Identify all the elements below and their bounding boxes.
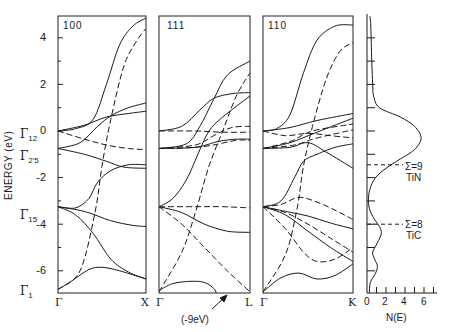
gamma15-label: Γ15 xyxy=(20,209,37,224)
solid-band xyxy=(263,144,353,207)
gamma-subscript: 12 xyxy=(28,134,37,143)
tic-sigma-label: Σ=8 xyxy=(405,219,423,230)
ytick-label-4: 4 xyxy=(26,32,46,43)
solid-band xyxy=(263,207,353,262)
dos-xtick-6: 6 xyxy=(421,297,427,307)
solid-band xyxy=(159,61,250,148)
gamma25-label: Γ2'5 xyxy=(20,150,39,165)
dos-panel xyxy=(367,14,437,293)
dashed-band xyxy=(58,131,146,150)
dos-curve xyxy=(368,16,421,293)
panel-111-bands xyxy=(159,61,250,293)
solid-band xyxy=(159,207,250,233)
dos-xtick-2: 2 xyxy=(382,297,388,307)
solid-band xyxy=(58,164,146,208)
panel-110-frame xyxy=(263,16,353,293)
dashed-band xyxy=(263,207,353,253)
kpoint-k: K xyxy=(348,297,356,308)
dashed-band xyxy=(263,43,353,292)
panel-title-111: 111 xyxy=(167,21,185,31)
dashed-band xyxy=(58,29,146,290)
solid-band xyxy=(159,96,250,207)
tin-name-label: TiN xyxy=(406,172,421,183)
tin-sigma-label: Σ=9 xyxy=(405,161,423,172)
gamma-subscript: 1 xyxy=(28,291,32,300)
arrow-9ev xyxy=(212,295,227,309)
kpoint-gamma-110: Γ xyxy=(260,297,268,308)
solid-band xyxy=(58,207,146,227)
ytick-label-neg6: -6 xyxy=(26,265,46,276)
dashed-band xyxy=(159,207,250,208)
annotation-9ev: (-9eV) xyxy=(181,314,209,325)
gamma12-label: Γ12 xyxy=(20,128,37,143)
panel-111-frame xyxy=(159,16,250,293)
solid-band xyxy=(58,111,146,131)
solid-band xyxy=(58,18,146,131)
dos-xlabel: N(E) xyxy=(386,313,407,323)
solid-band xyxy=(159,281,216,293)
gamma-subscript: 2'5 xyxy=(28,156,38,165)
band-curves xyxy=(58,18,353,293)
panel-110-bands xyxy=(263,25,353,292)
dos-axes xyxy=(367,14,437,293)
kpoint-x: X xyxy=(141,297,149,308)
tic-name-label: TiC xyxy=(406,230,421,241)
solid-band xyxy=(58,267,146,289)
y-axis-ticks xyxy=(58,38,63,271)
panel-100-bands xyxy=(58,18,146,289)
solid-band xyxy=(263,264,353,292)
solid-band xyxy=(263,25,353,131)
kpoint-gamma-100: Γ xyxy=(55,297,63,308)
kpoint-l: L xyxy=(245,297,252,308)
panel-title-100: 100 xyxy=(63,21,83,31)
dashed-band xyxy=(159,207,250,292)
ytick-label-2: 2 xyxy=(26,79,46,90)
solid-band xyxy=(159,93,250,131)
gamma1-label: Γ1 xyxy=(20,285,33,300)
ytick-label-neg2: -2 xyxy=(26,172,46,183)
y-axis-label: ENERGY (eV) xyxy=(4,131,14,200)
dashed-band xyxy=(159,131,250,132)
kpoint-gamma-111: Γ xyxy=(156,297,164,308)
dos-xtick-4: 4 xyxy=(401,297,407,307)
gamma-subscript: 15 xyxy=(28,215,37,224)
panel-title-110: 110 xyxy=(268,21,287,31)
band-structure-figure xyxy=(0,0,450,332)
dos-xtick-0: 0 xyxy=(364,297,370,307)
solid-band xyxy=(58,103,146,149)
panel-100-frame xyxy=(58,16,146,293)
